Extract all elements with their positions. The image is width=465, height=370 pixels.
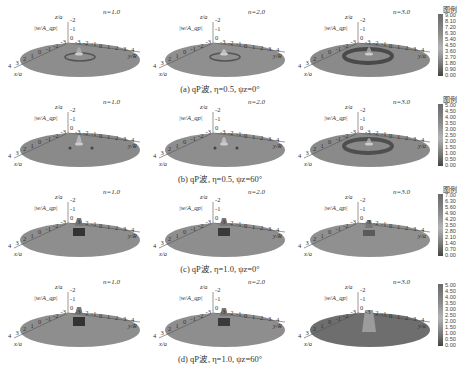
y-tick-label: -1 — [381, 40, 386, 47]
x-tick-label: 4 — [8, 332, 11, 339]
x-tick-label: -3 — [61, 218, 66, 225]
y-tick-label: -2 — [228, 129, 233, 136]
n-value-label: n=1.0 — [103, 188, 120, 196]
x-tick-label: -2 — [198, 42, 203, 49]
y-axis-label: y/R — [273, 52, 282, 59]
x-axis-label: x/a — [159, 160, 167, 167]
surface-plot: z/a|w/A_qp|-2-1043210-1-2-3-3-2-101234x/… — [145, 90, 295, 172]
y-tick-label: 2 — [115, 44, 118, 51]
x-tick-label: -2 — [198, 222, 203, 229]
y-tick-label: 0 — [99, 222, 102, 229]
x-tick-label: 4 — [298, 332, 301, 339]
x-tick-label: -2 — [343, 312, 348, 319]
x-axis-label: x/a — [159, 70, 167, 77]
z-tick-label: -1 — [70, 115, 75, 122]
y-tick-label: 3 — [123, 135, 126, 142]
x-tick-label: -1 — [336, 135, 341, 142]
x-tick-label: 2 — [23, 55, 26, 62]
y-tick-label: -3 — [365, 218, 370, 225]
x-tick-label: -1 — [191, 135, 196, 142]
y-tick-label: -3 — [220, 128, 225, 135]
w-axis-label: |w/A_qp| — [324, 204, 347, 211]
legend-colorbar — [438, 194, 443, 256]
surface-plot: z/a|w/A_qp|-2-1043210-1-2-3-3-2-101234x/… — [290, 90, 440, 172]
y-tick-label: 3 — [413, 135, 416, 142]
x-tick-label: 1 — [176, 232, 179, 239]
surface-plot: z/a|w/A_qp|-2-1043210-1-2-3-3-2-101234x/… — [0, 270, 150, 352]
n-value-label: n=3.0 — [393, 98, 410, 106]
y-tick-label: 1 — [107, 223, 110, 230]
x-tick-label: 3 — [16, 59, 19, 66]
z-axis-label: z/a — [55, 103, 63, 110]
x-tick-label: -2 — [53, 312, 58, 319]
legend-tick-label: 0.00 — [445, 252, 456, 258]
w-axis-label: |w/A_qp| — [324, 24, 347, 31]
x-tick-label: 3 — [161, 59, 164, 66]
x-tick-label: 2 — [168, 235, 171, 242]
y-tick-label: -2 — [373, 129, 378, 136]
x-tick-label: 2 — [313, 325, 316, 332]
surface-plot: z/a|w/A_qp|-2-1043210-1-2-3-3-2-101234x/… — [145, 0, 295, 82]
z-axis-label: z/a — [200, 13, 208, 20]
color-legend: 5.004.504.003.503.002.502.001.501.000.50… — [438, 274, 465, 354]
x-tick-label: 0 — [183, 138, 186, 145]
x-tick-label: 2 — [23, 235, 26, 242]
x-tick-label: -1 — [46, 315, 51, 322]
x-tick-label: 3 — [306, 239, 309, 246]
x-tick-label: 1 — [176, 52, 179, 59]
y-tick-label: 0 — [99, 312, 102, 319]
x-tick-label: -1 — [191, 45, 196, 52]
w-axis-label: |w/A_qp| — [179, 204, 202, 211]
z-tick-label: 0 — [360, 214, 363, 221]
y-tick-label: -3 — [365, 38, 370, 45]
y-tick-label: -1 — [236, 130, 241, 137]
x-tick-label: 3 — [16, 239, 19, 246]
legend-colorbar — [438, 14, 443, 76]
z-tick-label: -2 — [360, 286, 365, 293]
z-tick-label: -2 — [70, 106, 75, 113]
y-tick-label: -3 — [220, 308, 225, 315]
x-tick-label: -3 — [206, 128, 211, 135]
y-axis-label: y/a — [418, 52, 426, 59]
z-axis-label: z/a — [345, 193, 353, 200]
legend-ticks: 5.004.504.003.503.002.502.001.501.000.50… — [445, 282, 456, 349]
n-value-label: n=2.0 — [248, 188, 265, 196]
subfigure-caption: (d) qP波, η=1.0, ψz=60° — [0, 352, 440, 364]
n-value-label: n=2.0 — [248, 98, 265, 106]
z-tick-label: -2 — [70, 16, 75, 23]
z-tick-label: 0 — [70, 214, 73, 221]
x-tick-label: 3 — [161, 329, 164, 336]
x-tick-label: 0 — [328, 48, 331, 55]
y-tick-label: -1 — [91, 40, 96, 47]
x-tick-label: -1 — [336, 225, 341, 232]
y-tick-label: 0 — [244, 222, 247, 229]
y-tick-label: 0 — [389, 312, 392, 319]
y-tick-label: -3 — [365, 308, 370, 315]
x-tick-label: 0 — [183, 228, 186, 235]
z-tick-label: -1 — [70, 25, 75, 32]
y-tick-label: -1 — [91, 220, 96, 227]
z-tick-label: -2 — [360, 16, 365, 23]
x-tick-label: 4 — [153, 332, 156, 339]
n-value-label: n=1.0 — [103, 278, 120, 286]
y-tick-label: -1 — [236, 220, 241, 227]
y-tick-label: -2 — [83, 129, 88, 136]
y-tick-label: 2 — [260, 224, 263, 231]
y-tick-label: -2 — [373, 309, 378, 316]
x-tick-label: -2 — [343, 222, 348, 229]
legend-ticks: 9.008.107.206.305.404.503.602.701.800.90… — [445, 12, 456, 79]
y-tick-label: 1 — [397, 133, 400, 140]
z-tick-label: 0 — [360, 124, 363, 131]
x-tick-label: 3 — [306, 59, 309, 66]
color-legend: 图例7.006.305.604.904.203.502.802.101.400.… — [438, 184, 465, 264]
z-tick-label: -2 — [215, 286, 220, 293]
x-tick-label: 0 — [38, 228, 41, 235]
x-tick-label: 4 — [8, 152, 11, 159]
y-tick-label: 0 — [99, 132, 102, 139]
y-tick-label: 3 — [123, 45, 126, 52]
y-tick-label: -2 — [373, 39, 378, 46]
color-legend: 图例9.008.107.206.305.404.503.602.701.800.… — [438, 4, 465, 84]
y-tick-label: -2 — [228, 219, 233, 226]
x-tick-label: 1 — [31, 322, 34, 329]
y-tick-label: 3 — [413, 315, 416, 322]
